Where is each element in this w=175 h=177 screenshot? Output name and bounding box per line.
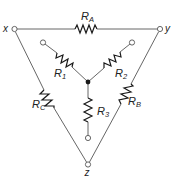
- label-ra: RA: [81, 10, 94, 24]
- inner-terminal-3[interactable]: [85, 135, 90, 140]
- terminal-y[interactable]: [157, 26, 162, 31]
- label-rb: RB: [128, 95, 141, 109]
- wire-inner-x-r1: [45, 44, 57, 53]
- resistor-r2: [104, 52, 121, 68]
- label-z: z: [84, 167, 90, 177]
- inner-terminal-1[interactable]: [40, 40, 45, 45]
- resistor-r1: [56, 53, 73, 67]
- wire-inner-y-r2: [120, 44, 130, 52]
- delta-wye-diagram: x y z RA RB RC R1 R2 R3: [0, 0, 175, 177]
- wire-y-rb: [131, 32, 159, 84]
- inner-terminal-2[interactable]: [129, 40, 134, 45]
- label-r2: R2: [115, 67, 128, 81]
- resistor-r3: [84, 98, 92, 122]
- labels: x y z RA RB RC R1 R2 R3: [2, 10, 171, 177]
- label-y: y: [164, 23, 171, 34]
- label-r1: R1: [54, 67, 66, 81]
- label-r3: R3: [97, 105, 110, 119]
- delta-network: [16, 25, 159, 162]
- wye-network: [45, 44, 130, 136]
- wire-x-rc: [16, 32, 45, 90]
- label-x: x: [2, 23, 9, 34]
- terminal-x[interactable]: [12, 26, 17, 31]
- wire-r1-center: [72, 67, 88, 82]
- terminals: [12, 26, 163, 167]
- wire-r2-center: [88, 68, 104, 82]
- resistor-ra: [75, 25, 97, 33]
- center-node: [86, 80, 91, 85]
- wire-rc-z: [54, 108, 87, 162]
